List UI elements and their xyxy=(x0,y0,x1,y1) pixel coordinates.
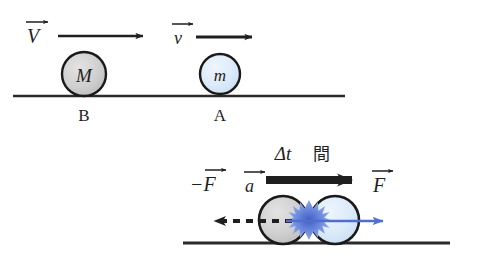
vector-label-v: v xyxy=(172,24,193,48)
force-negative-F-label: −F xyxy=(190,173,216,195)
velocity-V-label: V xyxy=(27,25,42,47)
ball-m: m xyxy=(200,54,240,94)
physics-collision-figure: V v M B m xyxy=(0,0,482,261)
scene-before-collision: V v M B m xyxy=(13,22,345,125)
force-F-label: F xyxy=(372,174,386,196)
ball-M-mass-label: M xyxy=(75,65,93,86)
scene-during-collision: Δt 間 −F a F xyxy=(183,143,450,244)
duration-japanese-suffix: 間 xyxy=(313,144,330,164)
ball-M: M xyxy=(62,52,106,96)
force-F-label-group: F xyxy=(372,171,393,196)
ball-m-mass-label: m xyxy=(214,66,226,85)
vector-label-V: V xyxy=(26,22,48,47)
velocity-v-label: v xyxy=(174,28,182,48)
acceleration-a-label: a xyxy=(245,176,254,196)
duration-delta-t-label: Δt xyxy=(274,143,292,164)
ball-M-name-label: B xyxy=(78,106,89,125)
figure-canvas: V v M B m xyxy=(0,0,482,261)
acceleration-a-label-group: a xyxy=(244,172,265,196)
force-negative-F-label-group: −F xyxy=(190,170,226,195)
ball-m-name-label: A xyxy=(214,106,227,125)
